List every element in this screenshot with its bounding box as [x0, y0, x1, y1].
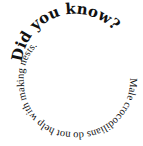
body-text: Male crocodilians do not help with makin… [14, 39, 139, 141]
body-textpath: Male crocodilians do not help with makin… [14, 39, 139, 141]
spiral-graphic: Did you know? Male crocodilians do not h… [0, 0, 143, 146]
